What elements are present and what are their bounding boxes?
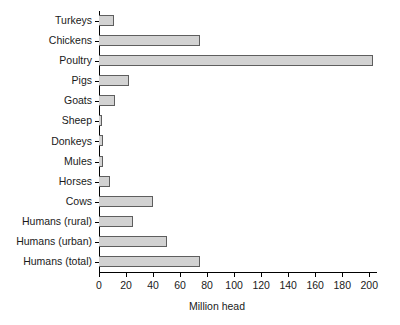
bar [99,15,114,26]
bar-row [99,111,376,131]
bar-row [99,71,376,91]
bar-row [99,192,376,212]
bar [99,95,115,106]
x-axis-title: Million head [0,300,400,312]
x-axis-tick [261,273,262,277]
y-axis-label: Humans (total) [23,256,92,267]
bar-row [99,152,376,172]
bar-row [99,91,376,111]
y-axis-label: Horses [59,176,92,187]
bar [99,75,129,86]
bar [99,176,110,187]
x-axis-tick [288,273,289,277]
y-axis-label: Humans (urban) [16,236,92,247]
bar-row [99,232,376,252]
bar [99,196,153,207]
y-axis-label: Cows [66,196,92,207]
bar-row [99,11,376,31]
y-axis-label: Pigs [72,75,92,86]
bar-row [99,131,376,151]
y-axis-label: Goats [64,95,92,106]
x-axis-tick [180,273,181,277]
x-axis-tick-label: 200 [349,279,389,291]
x-axis-tick [153,273,154,277]
x-axis-tick [342,273,343,277]
bar [99,115,102,126]
bar-row [99,172,376,192]
bar-row [99,51,376,71]
x-axis-tick [315,273,316,277]
x-axis-tick [126,273,127,277]
x-axis-line [99,272,377,273]
x-axis-title-text: Million head [189,300,245,312]
chart-figure: TurkeysChickensPoultryPigsGoatsSheepDonk… [0,0,400,325]
x-axis-tick [369,273,370,277]
bar [99,156,103,167]
bar [99,236,167,247]
y-axis-label: Chickens [49,35,92,46]
y-axis-label: Mules [64,156,92,167]
bar [99,216,133,227]
bar-row [99,252,376,272]
bar-row [99,212,376,232]
bar [99,35,200,46]
x-axis-tick [99,273,100,277]
x-axis-tick [234,273,235,277]
y-axis-label: Turkeys [55,15,92,26]
bar-row [99,31,376,51]
bar [99,55,373,66]
y-axis-label: Poultry [59,55,92,66]
x-axis-tick [207,273,208,277]
bar [99,135,103,146]
y-axis-label: Donkeys [51,136,92,147]
y-axis-label: Humans (rural) [22,216,92,227]
bar [99,256,200,267]
y-axis-label: Sheep [62,115,92,126]
